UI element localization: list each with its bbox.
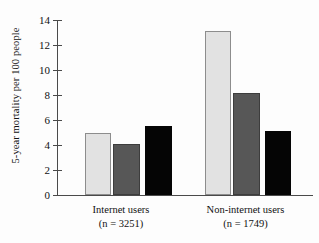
y-axis-title-container: 5-year mortality per 100 people (0, 0, 22, 200)
y-tick-mark (53, 195, 62, 196)
y-tick-label: 0 (45, 190, 51, 201)
bar-group1-series3 (145, 126, 172, 195)
plot-area: 14 12 10 8 6 4 2 0 (57, 20, 313, 195)
y-tick-mark (53, 170, 62, 171)
bar-chart-figure: 5-year mortality per 100 people 14 12 10… (0, 0, 319, 243)
bar-group2-series1 (205, 31, 231, 195)
y-tick-label: 4 (45, 140, 51, 151)
bar-group1-series1 (85, 133, 111, 196)
y-tick-mark (53, 95, 62, 96)
y-tick-label: 8 (45, 90, 51, 101)
bar-group2-series3 (265, 131, 291, 195)
y-tick-label: 2 (45, 165, 51, 176)
y-tick-label: 10 (39, 65, 50, 76)
y-tick-mark (53, 70, 62, 71)
y-tick-label: 14 (39, 15, 50, 26)
y-tick-label: 6 (45, 115, 51, 126)
category-label-line2: (n = 3251) (58, 217, 184, 231)
y-axis-title: 5-year mortality per 100 people (10, 1, 21, 191)
y-tick-mark (53, 20, 62, 21)
x-category-label-non-internet-users: Non-internet users (n = 1749) (178, 203, 313, 230)
bar-group1-series2 (113, 144, 140, 195)
y-tick-mark (53, 120, 62, 121)
category-label-line1: Internet users (93, 204, 150, 215)
bar-group2-series2 (233, 93, 260, 196)
y-tick-label: 12 (39, 40, 50, 51)
y-tick-mark (53, 45, 62, 46)
category-label-line2: (n = 1749) (178, 217, 313, 231)
category-label-line1: Non-internet users (207, 204, 285, 215)
x-category-label-internet-users: Internet users (n = 3251) (58, 203, 184, 230)
y-tick-mark (53, 145, 62, 146)
x-axis-line (57, 195, 313, 196)
